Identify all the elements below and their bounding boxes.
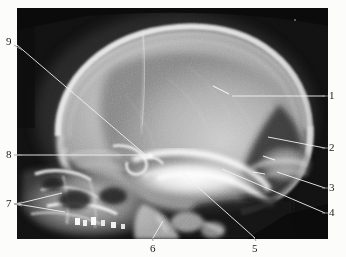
radiograph-figure: 1 2 3 4 5 6 7 8 9 <box>0 0 346 257</box>
label-5: 5 <box>252 243 258 254</box>
label-9: 9 <box>6 36 12 47</box>
label-2: 2 <box>329 142 335 153</box>
label-3: 3 <box>329 182 335 193</box>
label-8: 8 <box>6 149 12 160</box>
xray-image <box>17 8 328 239</box>
label-1: 1 <box>329 90 335 101</box>
label-6: 6 <box>150 243 156 254</box>
xray-plate <box>17 8 328 239</box>
label-7: 7 <box>6 198 12 209</box>
label-4: 4 <box>329 207 335 218</box>
